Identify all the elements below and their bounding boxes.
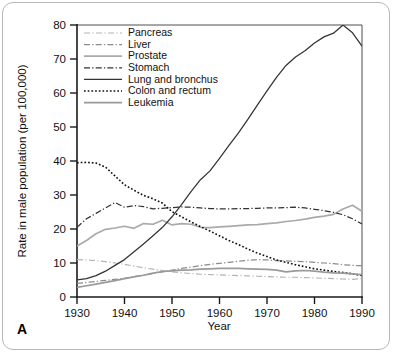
y-axis-title: Rate in male population (per 100,000)	[16, 64, 28, 257]
legend-label-stomach: Stomach	[128, 61, 170, 73]
x-tick-label: 1950	[159, 307, 185, 319]
chart-legend: PancreasLiverProstateStomachLung and bro…	[84, 26, 218, 108]
y-tick-label: 20	[53, 223, 66, 235]
series-line-prostate	[77, 205, 362, 246]
x-tick-label: 1940	[112, 307, 138, 319]
cancer-death-rate-line-chart: 01020304050607080 1930194019501960197019…	[0, 0, 396, 355]
y-tick-label: 80	[53, 19, 66, 31]
y-tick-label: 10	[53, 257, 66, 269]
legend-label-pancreas: Pancreas	[128, 26, 172, 38]
y-tick-label: 70	[53, 53, 66, 65]
axes	[76, 24, 363, 297]
y-tick-label: 30	[53, 189, 66, 201]
x-tick-label: 1990	[349, 307, 375, 319]
x-tick-label: 1970	[254, 307, 280, 319]
legend-label-liver: Liver	[128, 38, 151, 50]
x-tick-label: 1930	[64, 307, 90, 319]
chart-stage: 01020304050607080 1930194019501960197019…	[0, 0, 396, 355]
series-line-lung-and-bronchus	[77, 25, 362, 280]
x-tick-label: 1960	[207, 307, 233, 319]
y-tick-label: 60	[53, 87, 66, 99]
x-tick-label: 1980	[302, 307, 328, 319]
legend-label-colon-and-rectum: Colon and rectum	[128, 84, 211, 96]
legend-label-leukemia: Leukemia	[128, 96, 174, 108]
data-series-layer	[77, 25, 362, 287]
legend-label-prostate: Prostate	[128, 49, 167, 61]
y-tick-label: 50	[53, 121, 66, 133]
y-tick-label: 40	[53, 155, 66, 167]
panel-letter: A	[17, 321, 27, 337]
legend-label-lung-and-bronchus: Lung and bronchus	[128, 73, 218, 85]
y-axis-ticks: 01020304050607080	[53, 19, 77, 303]
series-line-colon-and-rectum	[77, 162, 362, 275]
series-line-stomach	[77, 202, 362, 227]
y-tick-label: 0	[60, 291, 66, 303]
plot-frame	[77, 25, 362, 297]
x-axis-title: Year	[207, 320, 230, 332]
x-axis-ticks: 1930194019501960197019801990	[64, 297, 375, 319]
